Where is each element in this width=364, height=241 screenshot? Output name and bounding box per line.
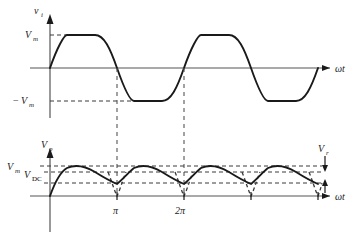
rectified-dip-4pi	[309, 172, 322, 196]
ripple-arrow-upper-head	[322, 165, 328, 172]
top-tick-vm-positive-subscript: m	[33, 35, 38, 43]
top-y-axis-label: v	[34, 5, 39, 16]
top-plot: v i V m − V m ωt	[13, 5, 345, 118]
bottom-y-axis-label: V	[41, 139, 49, 150]
vertical-connectors	[117, 68, 184, 196]
bottom-x-axis-label: ωt	[335, 191, 345, 202]
top-tick-vm-positive: V	[25, 29, 33, 40]
tick-label-2pi: 2π	[175, 205, 186, 216]
bottom-tick-vdc: V	[24, 169, 32, 180]
tick-label-pi: π	[113, 205, 119, 216]
ripple-label: V	[318, 143, 326, 154]
bottom-tick-vm-subscript: m	[15, 167, 20, 175]
ripple-arrow-lower-head	[322, 179, 328, 186]
top-x-axis-label: ωt	[335, 63, 345, 74]
top-tick-vm-negative: V	[21, 95, 29, 106]
bottom-tick-vm: V	[7, 161, 15, 172]
waveform-figure: v i V m − V m ωt	[0, 0, 364, 241]
bottom-x-axis-arrowhead	[322, 193, 330, 199]
bottom-plot: π 2π V o V m V DC ωt V r	[7, 139, 345, 232]
unfiltered-rectified-sine	[108, 172, 322, 196]
top-x-axis-arrowhead	[322, 65, 330, 71]
ripple-annotation: V r	[318, 143, 329, 193]
bottom-tick-vdc-subscript: DC	[32, 175, 42, 183]
ripple-label-subscript: r	[326, 149, 329, 157]
top-tick-vm-negative-subscript: m	[29, 101, 34, 109]
top-y-axis-label-subscript: i	[41, 11, 43, 19]
bottom-y-axis-label-subscript: o	[49, 145, 53, 153]
top-tick-vm-negative-sign: −	[13, 95, 19, 106]
top-y-axis-arrowhead	[47, 14, 54, 24]
